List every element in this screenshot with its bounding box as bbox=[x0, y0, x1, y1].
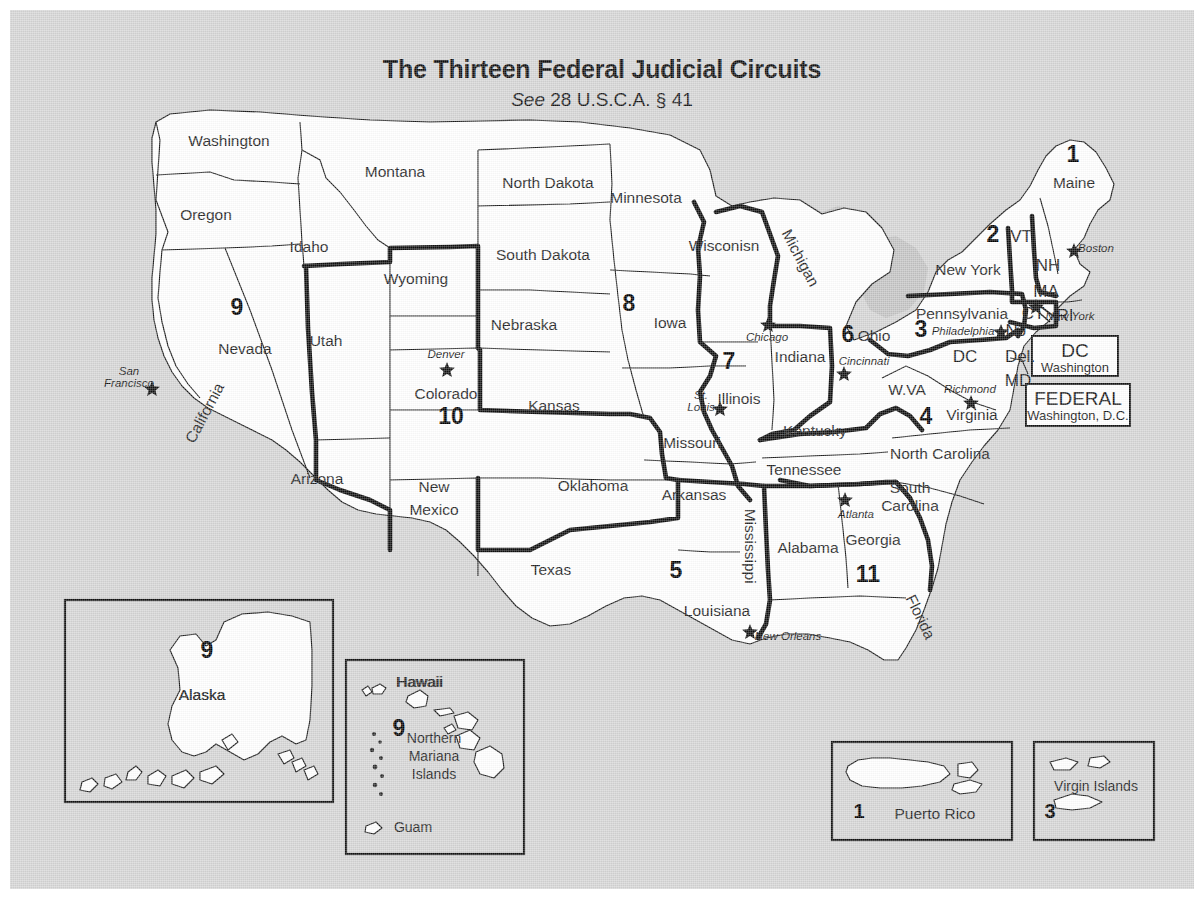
state-label-idaho: Idaho bbox=[290, 239, 329, 255]
city-label-st-louis-line2: Louis bbox=[687, 401, 715, 413]
state-label-minnesota: Minnesota bbox=[610, 190, 682, 206]
inset-caption-northern: Northern bbox=[407, 731, 461, 746]
state-abbr-nh: NH bbox=[1036, 257, 1061, 275]
state-label-oregon: Oregon bbox=[180, 207, 232, 223]
state-label-south: South bbox=[890, 480, 931, 496]
state-label-louisiana: Louisiana bbox=[684, 603, 750, 619]
state-abbr-ma: MA bbox=[1033, 283, 1059, 301]
state-label-kentucky: Kentucky bbox=[783, 423, 847, 439]
inset-caption-islands: Islands bbox=[412, 767, 456, 782]
state-label-new-york: New York bbox=[935, 262, 1000, 278]
state-label-wyoming: Wyoming bbox=[384, 271, 448, 287]
inset-caption-hawaii: Hawaii bbox=[397, 674, 444, 690]
puerto-rico-inset-box bbox=[832, 742, 1012, 840]
state-label-illinois: Illinois bbox=[717, 391, 760, 407]
circuit-number-9: 9 bbox=[231, 295, 244, 319]
state-label-new: New bbox=[418, 479, 449, 495]
subtitle-citation: 28 U.S.C.A. § 41 bbox=[545, 89, 693, 110]
state-label-oklahoma: Oklahoma bbox=[558, 478, 629, 494]
city-label-boston: Boston bbox=[1078, 242, 1114, 254]
state-abbr-nj: NJ bbox=[1006, 322, 1027, 340]
title-block: The Thirteen Federal Judicial Circuits S… bbox=[10, 56, 1194, 110]
state-label-iowa: Iowa bbox=[654, 315, 687, 331]
label-box-federal: FEDERALWashington, D.C. bbox=[1026, 388, 1130, 424]
state-label-arkansas: Arkansas bbox=[662, 487, 727, 503]
inset-caption-mariana: Mariana bbox=[409, 749, 460, 764]
state-label-georgia: Georgia bbox=[845, 532, 900, 548]
label-box-subtitle-federal: Washington, D.C. bbox=[1026, 409, 1130, 424]
circuit-number-6: 6 bbox=[842, 322, 855, 346]
city-label-richmond: Richmond bbox=[944, 383, 996, 395]
inset-caption-alaska: Alaska bbox=[179, 687, 226, 703]
state-label-nevada: Nevada bbox=[218, 341, 271, 357]
city-label-philadelphia: Philadelphia bbox=[932, 325, 995, 337]
state-abbr-dc: DC bbox=[953, 348, 978, 366]
state-label-mississippi: Mississippi bbox=[742, 509, 758, 584]
state-label-wisconisn: Wisconisn bbox=[689, 238, 760, 254]
circuit-number-1: 1 bbox=[1067, 142, 1080, 166]
label-box-title-dc: DC bbox=[1032, 340, 1118, 361]
state-label-virginia: Virginia bbox=[946, 407, 997, 423]
circuit-number-5: 5 bbox=[670, 558, 683, 582]
state-label-alabama: Alabama bbox=[777, 540, 838, 556]
state-label-w-va: W.VA bbox=[888, 382, 926, 398]
page-subtitle: See 28 U.S.C.A. § 41 bbox=[10, 90, 1194, 111]
city-label-san-francisco: San bbox=[119, 365, 139, 377]
circuit-number-4: 4 bbox=[920, 404, 933, 428]
state-label-washington: Washington bbox=[188, 133, 269, 149]
state-label-indiana: Indiana bbox=[775, 349, 826, 365]
circuit-number-10: 10 bbox=[438, 404, 464, 428]
inset-caption-puerto-rico: Puerto Rico bbox=[895, 806, 976, 822]
circuit-number-8: 8 bbox=[623, 291, 636, 315]
city-label-atlanta: Atlanta bbox=[838, 508, 874, 520]
circuit-number-3: 3 bbox=[915, 317, 928, 341]
state-label-arizona: Arizona bbox=[291, 471, 344, 487]
state-label-ohio: Ohio bbox=[858, 328, 891, 344]
circuit-number-11: 11 bbox=[856, 562, 880, 586]
city-label-st-louis: St. bbox=[694, 389, 708, 401]
state-label-nebraska: Nebraska bbox=[491, 317, 557, 333]
inset-circuit-number-alaska: 9 bbox=[201, 638, 214, 662]
state-label-carolina: Carolina bbox=[881, 498, 939, 514]
state-label-pennsylvania: Pennsylvania bbox=[916, 306, 1008, 322]
inset-circuit-number-puerto-rico: 1 bbox=[853, 801, 864, 822]
page-title: The Thirteen Federal Judicial Circuits bbox=[10, 56, 1194, 84]
city-label-san-francisco-line2: Francisco bbox=[104, 377, 154, 389]
label-box-dc: DCWashington bbox=[1032, 340, 1118, 376]
inset-caption-guam: Guam bbox=[394, 820, 432, 835]
state-label-mexico: Mexico bbox=[409, 502, 458, 518]
state-label-utah: Utah bbox=[310, 333, 343, 349]
circuit-number-2: 2 bbox=[987, 222, 1000, 246]
state-label-north-carolina: North Carolina bbox=[890, 446, 990, 462]
city-label-new-orleans: New Orleans bbox=[755, 630, 821, 642]
state-label-south-dakota: South Dakota bbox=[496, 247, 590, 263]
city-label-chicago: Chicago bbox=[746, 331, 788, 343]
state-label-montana: Montana bbox=[365, 164, 425, 180]
city-label-cincinnati: Cincinnati bbox=[839, 355, 890, 367]
state-abbr-del: Del. bbox=[1005, 348, 1035, 366]
city-label-denver: Denver bbox=[427, 348, 464, 360]
label-box-title-federal: FEDERAL bbox=[1026, 388, 1130, 409]
inset-caption-virgin-islands: Virgin Islands bbox=[1054, 779, 1138, 794]
state-label-missouri: Missouri bbox=[663, 435, 721, 451]
state-label-texas: Texas bbox=[531, 562, 572, 578]
state-abbr-vt: VT bbox=[1010, 228, 1032, 246]
state-label-colorado: Colorado bbox=[415, 386, 478, 402]
map-page: The Thirteen Federal Judicial Circuits S… bbox=[0, 0, 1204, 899]
subtitle-see: See bbox=[511, 89, 545, 110]
state-label-maine: Maine bbox=[1053, 175, 1095, 191]
city-label-new-york: New York bbox=[1045, 310, 1094, 322]
state-label-tennessee: Tennessee bbox=[767, 462, 842, 478]
label-box-subtitle-dc: Washington bbox=[1032, 361, 1118, 376]
inset-circuit-number-hawaii: 9 bbox=[393, 716, 406, 740]
state-label-kansas: Kansas bbox=[528, 398, 580, 414]
inset-circuit-number-virgin-islands: 3 bbox=[1044, 801, 1055, 822]
circuit-number-7: 7 bbox=[723, 349, 736, 373]
state-label-north-dakota: North Dakota bbox=[502, 175, 593, 191]
